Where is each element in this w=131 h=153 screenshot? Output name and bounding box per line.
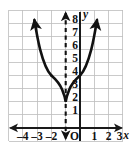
x-axis-label: x bbox=[122, 129, 129, 141]
y-tick-5: 5 bbox=[72, 52, 78, 64]
x-tick-3: 3 bbox=[117, 130, 123, 142]
y-tick-3: 3 bbox=[72, 78, 78, 90]
graph-canvas: 8 7 6 5 4 3 2 1 –4 –3 –2 1 2 3 O x y bbox=[0, 0, 131, 153]
y-axis-label: y bbox=[81, 8, 89, 21]
y-tick-7: 7 bbox=[72, 26, 78, 38]
parabola-coordinate-graph: 8 7 6 5 4 3 2 1 –4 –3 –2 1 2 3 O x y bbox=[0, 0, 131, 153]
origin-label: O bbox=[70, 130, 79, 142]
y-tick-6: 6 bbox=[72, 39, 78, 51]
x-tick-neg4: –4 bbox=[16, 130, 29, 142]
y-tick-2: 2 bbox=[72, 91, 78, 103]
x-tick-1: 1 bbox=[91, 130, 97, 142]
y-tick-1: 1 bbox=[72, 104, 78, 116]
x-tick-neg3: –3 bbox=[30, 130, 43, 142]
y-tick-8: 8 bbox=[72, 13, 78, 25]
y-tick-4: 4 bbox=[72, 65, 78, 77]
x-tick-2: 2 bbox=[106, 130, 112, 142]
x-tick-neg2: –2 bbox=[45, 130, 58, 142]
y-tick-labels: 8 7 6 5 4 3 2 1 bbox=[72, 13, 78, 117]
